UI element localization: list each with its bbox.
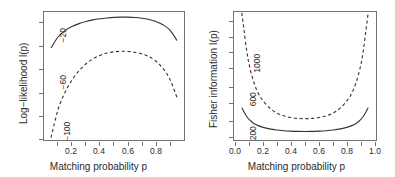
x-minortick-left-3 bbox=[113, 142, 114, 146]
x-ticklabel-left-04: 0.4 bbox=[86, 147, 112, 156]
y-tick-left-4 bbox=[39, 93, 43, 94]
x-minortick-right-3 bbox=[305, 142, 306, 146]
curve-fisher-solid bbox=[242, 108, 368, 132]
y-ticklabel-right-1000: 1000 bbox=[253, 48, 262, 78]
y-minortick-right-3 bbox=[229, 68, 233, 69]
y-ticklabel-left-minus20: −20 bbox=[59, 22, 68, 48]
y-tick-right-1000 bbox=[229, 52, 233, 53]
x-ticklabel-right-00: 0.0 bbox=[222, 147, 248, 156]
x-minortick-left-1 bbox=[57, 142, 58, 146]
y-tick-right-200 bbox=[229, 121, 233, 122]
panel-log-likelihood: −20 −60 −100 0.2 0.4 0.6 0.8 Matching pr… bbox=[0, 0, 197, 177]
x-ticklabel-right-10: 1.0 bbox=[362, 147, 388, 156]
x-ticklabel-left-08: 0.8 bbox=[143, 147, 169, 156]
y-tick-right-600 bbox=[229, 87, 233, 88]
x-ticklabel-left-02: 0.2 bbox=[58, 147, 84, 156]
y-minortick-right-5 bbox=[229, 137, 233, 138]
x-minortick-right-4 bbox=[333, 142, 334, 146]
x-ticklabel-right-02: 0.2 bbox=[250, 147, 276, 156]
x-axis-title-left: Matching probability p bbox=[0, 161, 197, 172]
y-tick-left-3 bbox=[39, 69, 43, 70]
y-ticklabel-right-200: 200 bbox=[249, 120, 258, 146]
x-ticklabel-right-08: 0.8 bbox=[334, 147, 360, 156]
y-ticklabel-left-minus60: −60 bbox=[59, 69, 68, 95]
panel-fisher-information: 1000 600 200 0.0 0.2 0.4 0.6 0.8 1.0 Mat… bbox=[198, 0, 395, 177]
y-axis-title-right: Fisher information I(p) bbox=[208, 30, 219, 128]
y-tick-left-5 bbox=[39, 116, 43, 117]
y-tick-left-1 bbox=[39, 22, 43, 23]
curve-log-likelihood-solid bbox=[51, 17, 177, 48]
y-tick-left-6 bbox=[39, 139, 43, 140]
figure-canvas: −20 −60 −100 0.2 0.4 0.6 0.8 Matching pr… bbox=[0, 0, 395, 177]
x-minortick-right-5 bbox=[361, 142, 362, 146]
y-ticklabel-right-600: 600 bbox=[249, 86, 258, 112]
y-axis-title-left: Log−likelihood l(p) bbox=[18, 43, 29, 124]
y-minortick-right-4 bbox=[229, 103, 233, 104]
x-minortick-left-5 bbox=[170, 142, 171, 146]
y-ticklabel-left-minus100: −100 bbox=[63, 116, 72, 146]
x-minortick-right-1 bbox=[249, 142, 250, 146]
x-axis-title-right: Matching probability p bbox=[198, 161, 395, 172]
x-ticklabel-right-04: 0.4 bbox=[278, 147, 304, 156]
x-minortick-left-2 bbox=[85, 142, 86, 146]
x-ticklabel-right-06: 0.6 bbox=[306, 147, 332, 156]
y-tick-left-2 bbox=[39, 46, 43, 47]
y-minortick-right-2 bbox=[229, 37, 233, 38]
x-minortick-right-2 bbox=[277, 142, 278, 146]
x-ticklabel-left-06: 0.6 bbox=[115, 147, 141, 156]
y-minortick-right-1 bbox=[229, 21, 233, 22]
x-minortick-left-4 bbox=[142, 142, 143, 146]
